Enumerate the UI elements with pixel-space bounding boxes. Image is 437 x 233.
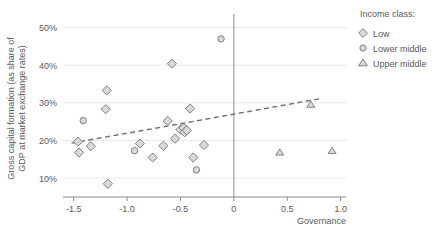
y-tick-label-0: 10% bbox=[39, 174, 57, 184]
data-point bbox=[74, 148, 83, 157]
scatter-chart: -1.5-1.0-0.500.51.0 10%20%30%40%50% Gove… bbox=[0, 0, 437, 233]
y-tick-label-4: 50% bbox=[39, 23, 57, 33]
x-tick-label-2: -0.5 bbox=[173, 204, 189, 214]
y-tick-label-3: 40% bbox=[39, 61, 57, 71]
x-axis-title: Governance bbox=[297, 216, 346, 226]
x-tick-labels: -1.5-1.0-0.500.51.0 bbox=[66, 204, 347, 214]
series-lower-middle bbox=[80, 36, 224, 173]
legend-label-low: Low bbox=[373, 29, 390, 39]
data-point bbox=[276, 149, 284, 155]
data-point bbox=[189, 153, 198, 162]
chart-canvas: -1.5-1.0-0.500.51.0 10%20%30%40%50% Gove… bbox=[0, 0, 437, 233]
data-point bbox=[218, 36, 224, 42]
data-point bbox=[307, 101, 315, 107]
data-point bbox=[102, 86, 111, 95]
y-axis-title-line-2: GDP at market exchange rates) bbox=[17, 45, 27, 171]
data-point bbox=[80, 117, 86, 123]
x-tick-label-0: -1.5 bbox=[66, 204, 82, 214]
data-point bbox=[328, 147, 336, 153]
legend-label-upper-middle: Upper middle bbox=[373, 59, 427, 69]
data-point bbox=[101, 105, 110, 114]
data-point bbox=[167, 59, 176, 68]
trendline bbox=[72, 98, 323, 143]
data-point bbox=[163, 116, 172, 125]
y-tick-label-1: 20% bbox=[39, 136, 57, 146]
legend-marker-upper-middle bbox=[359, 59, 368, 66]
legend-marker-lower-middle bbox=[360, 45, 366, 51]
data-point bbox=[171, 134, 180, 143]
data-point bbox=[131, 147, 137, 153]
y-axis-title-line-1: Gross capital formation (as share of bbox=[6, 37, 16, 180]
data-point bbox=[193, 167, 199, 173]
series-upper-middle bbox=[276, 101, 336, 155]
data-point bbox=[199, 140, 208, 149]
x-tick-label-3: 0 bbox=[231, 204, 236, 214]
data-point bbox=[159, 141, 168, 150]
data-point bbox=[103, 179, 112, 188]
y-tick-label-2: 30% bbox=[39, 98, 57, 108]
data-point bbox=[148, 153, 157, 162]
y-tick-labels: 10%20%30%40%50% bbox=[39, 23, 57, 184]
legend-title: Income class: bbox=[360, 9, 415, 19]
legend: Income class: LowLower middleUpper middl… bbox=[359, 9, 427, 69]
x-tick-label-4: 0.5 bbox=[281, 204, 294, 214]
data-point bbox=[86, 142, 95, 151]
data-points bbox=[73, 36, 336, 189]
y-axis-title: Gross capital formation (as share ofGDP … bbox=[6, 37, 27, 180]
legend-label-lower-middle: Lower middle bbox=[373, 44, 427, 54]
gridlines bbox=[63, 28, 346, 179]
data-point bbox=[185, 104, 194, 113]
legend-marker-low bbox=[359, 29, 368, 38]
x-tick-label-1: -1.0 bbox=[119, 204, 135, 214]
data-point bbox=[73, 137, 82, 146]
series-low bbox=[73, 59, 208, 188]
x-tick-label-5: 1.0 bbox=[334, 204, 347, 214]
